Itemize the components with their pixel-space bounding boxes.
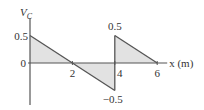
x-tick-label: 6 <box>154 67 160 79</box>
y-axis-label: VC <box>20 6 33 21</box>
trough-annotation: −0.5 <box>103 93 123 105</box>
chart: VC x (m) 0 0.5 2 4 6 0.5 −0.5 <box>0 0 204 110</box>
x-tick-label: 4 <box>117 67 123 79</box>
x-axis-label: x (m) <box>169 57 193 70</box>
y-tick-label: 0.5 <box>14 30 28 42</box>
peak-annotation: 0.5 <box>108 20 122 32</box>
x-tick-label: 2 <box>70 67 76 79</box>
y-tick-label: 0 <box>21 57 27 69</box>
